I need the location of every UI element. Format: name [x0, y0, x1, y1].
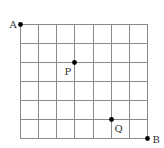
point-label: A	[9, 19, 18, 30]
point-dot	[109, 117, 114, 122]
grid-diagram: APQB	[0, 0, 164, 148]
grid-lines	[21, 25, 148, 139]
point-dot	[18, 22, 23, 27]
point-dot	[145, 136, 150, 141]
point-dot	[72, 60, 77, 65]
point-label: B	[153, 134, 160, 145]
point-label: P	[65, 66, 72, 77]
point-label: Q	[115, 123, 123, 134]
